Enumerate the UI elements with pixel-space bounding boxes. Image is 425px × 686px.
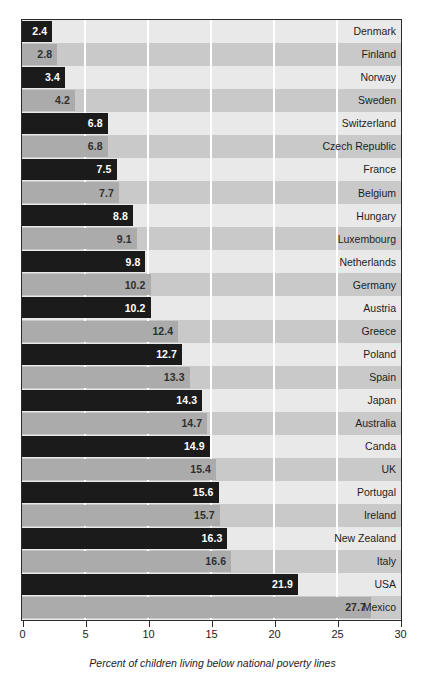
country-label: Norway xyxy=(360,66,396,89)
country-label: Czech Republic xyxy=(322,135,396,158)
x-tick-label: 30 xyxy=(394,629,406,640)
country-label: Mexico xyxy=(363,596,396,619)
x-axis: 051015202530 xyxy=(21,621,402,651)
country-label: Finland xyxy=(362,43,396,66)
country-label: Portugal xyxy=(357,481,396,504)
country-label: Denmark xyxy=(353,20,396,43)
x-tick-label: 10 xyxy=(142,629,154,640)
x-tick-label: 20 xyxy=(268,629,280,640)
country-label: Spain xyxy=(369,366,396,389)
country-label: Austria xyxy=(363,296,396,319)
x-tick-label: 0 xyxy=(19,629,25,640)
x-tick-label: 15 xyxy=(205,629,217,640)
country-label: Sweden xyxy=(358,89,396,112)
country-label: Luxembourg xyxy=(338,227,396,250)
x-tick-mark xyxy=(149,621,151,627)
country-label: Greece xyxy=(362,320,396,343)
x-tick-mark xyxy=(275,621,277,627)
country-label: Canda xyxy=(365,435,396,458)
x-tick-mark xyxy=(338,621,340,627)
country-label: UK xyxy=(381,458,396,481)
country-label: New Zealand xyxy=(334,527,396,550)
country-label: Poland xyxy=(363,343,396,366)
country-label: France xyxy=(363,158,396,181)
x-tick-mark xyxy=(401,621,403,627)
country-label: Ireland xyxy=(364,504,396,527)
poverty-bar-chart: 2.42.83.44.26.86.87.57.78.89.19.810.210.… xyxy=(0,0,425,686)
country-label: Hungary xyxy=(356,204,396,227)
country-labels-layer: DenmarkFinlandNorwaySwedenSwitzerlandCze… xyxy=(22,20,401,620)
country-label: Germany xyxy=(353,273,396,296)
country-label: Italy xyxy=(377,550,396,573)
axis-caption: Percent of children living below nationa… xyxy=(0,657,425,670)
country-label: Switzerland xyxy=(342,112,396,135)
country-label: USA xyxy=(374,573,396,596)
plot-area: 2.42.83.44.26.86.87.57.78.89.19.810.210.… xyxy=(21,19,402,621)
x-tick-label: 5 xyxy=(82,629,88,640)
country-label: Japan xyxy=(367,389,396,412)
country-label: Belgium xyxy=(358,181,396,204)
x-tick-mark xyxy=(86,621,88,627)
country-label: Australia xyxy=(355,412,396,435)
x-tick-label: 25 xyxy=(331,629,343,640)
country-label: Netherlands xyxy=(339,250,396,273)
x-tick-mark xyxy=(212,621,214,627)
x-tick-mark xyxy=(23,621,25,627)
